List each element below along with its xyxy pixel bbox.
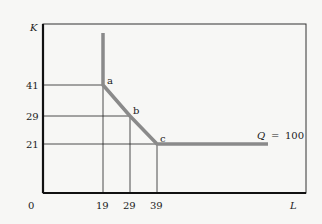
plot-frame xyxy=(43,24,306,193)
isoquant-curve xyxy=(103,33,268,144)
y-tick-21: 21 xyxy=(26,139,39,150)
y-axis-label: K xyxy=(29,22,38,33)
point-c-label: c xyxy=(160,133,166,144)
point-a-label: a xyxy=(107,75,113,86)
y-tick-29: 29 xyxy=(26,111,39,122)
isoquant-label-q: Q xyxy=(257,130,265,141)
x-tick-19: 19 xyxy=(96,200,109,211)
point-b-label: b xyxy=(133,105,139,116)
origin-label: 0 xyxy=(28,200,34,211)
isoquant-label-eq: = xyxy=(271,130,279,141)
isoquant-label-value: 100 xyxy=(285,130,304,141)
reference-lines xyxy=(43,85,157,193)
y-tick-41: 41 xyxy=(26,80,39,91)
x-tick-29: 29 xyxy=(123,200,136,211)
isoquant-chart: K L 0 41 29 21 19 29 39 a b c Q = 100 xyxy=(0,0,322,224)
x-tick-39: 39 xyxy=(150,200,163,211)
x-axis-label: L xyxy=(289,200,297,211)
